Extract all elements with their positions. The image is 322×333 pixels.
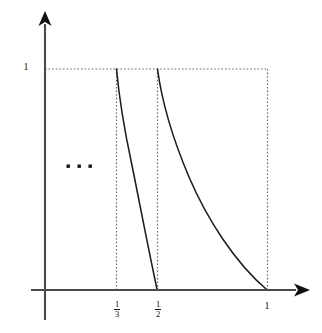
figure-canvas: 1 1 3 1 2 1 <box>0 0 322 333</box>
curve-half-to-one <box>158 69 268 290</box>
ellipsis-dot-3 <box>89 165 92 168</box>
y-axis-arrow-icon <box>39 11 52 26</box>
x-axis-arrow-icon <box>294 284 310 297</box>
x-axis-tick-label-one-half: 1 2 <box>151 300 165 319</box>
y-axis-tick-label-one: 1 <box>20 62 32 72</box>
fraction-denominator: 2 <box>155 310 161 319</box>
plot-svg <box>0 0 322 333</box>
fraction-one-third: 1 3 <box>114 300 120 319</box>
fraction-one-half: 1 2 <box>155 300 161 319</box>
x-axis-tick-label-one: 1 <box>261 301 273 311</box>
fraction-denominator: 3 <box>114 310 120 319</box>
x-axis-tick-label-one-third: 1 3 <box>110 300 124 319</box>
ellipsis-dot-1 <box>67 165 70 168</box>
curve-third-to-half <box>117 69 158 290</box>
ellipsis-dot-2 <box>78 165 81 168</box>
